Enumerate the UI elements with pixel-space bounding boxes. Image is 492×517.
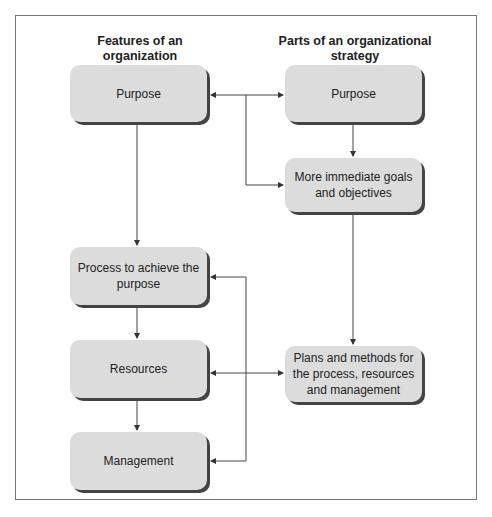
goals-box: More immediate goals and objectives — [285, 158, 422, 212]
management-box: Management — [70, 432, 207, 490]
process-box: Process to achieve the purpose — [70, 247, 207, 305]
right-purpose-box: Purpose — [285, 65, 422, 122]
resources-box: Resources — [70, 340, 207, 398]
left-purpose-box: Purpose — [70, 65, 207, 122]
plans-box: Plans and methods for the process, resou… — [285, 346, 422, 402]
